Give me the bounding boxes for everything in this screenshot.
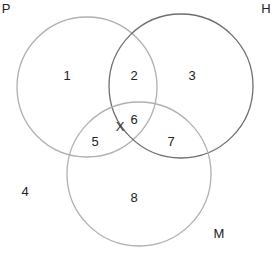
x-marker: X [116, 120, 125, 133]
set-circle-h [109, 14, 253, 158]
set-label-h: H [261, 2, 270, 15]
region-label-2: 2 [130, 69, 137, 82]
region-label-1: 1 [63, 69, 70, 82]
set-circle-m [67, 102, 211, 246]
set-label-p: P [2, 2, 11, 15]
region-label-5: 5 [91, 135, 98, 148]
region-label-7: 7 [167, 135, 174, 148]
venn-diagram [0, 0, 273, 253]
set-circle-p [17, 17, 157, 157]
region-label-4: 4 [21, 185, 28, 198]
region-label-8: 8 [130, 191, 137, 204]
region-label-6: 6 [130, 113, 137, 126]
region-label-3: 3 [188, 69, 195, 82]
set-label-m: M [214, 227, 225, 240]
